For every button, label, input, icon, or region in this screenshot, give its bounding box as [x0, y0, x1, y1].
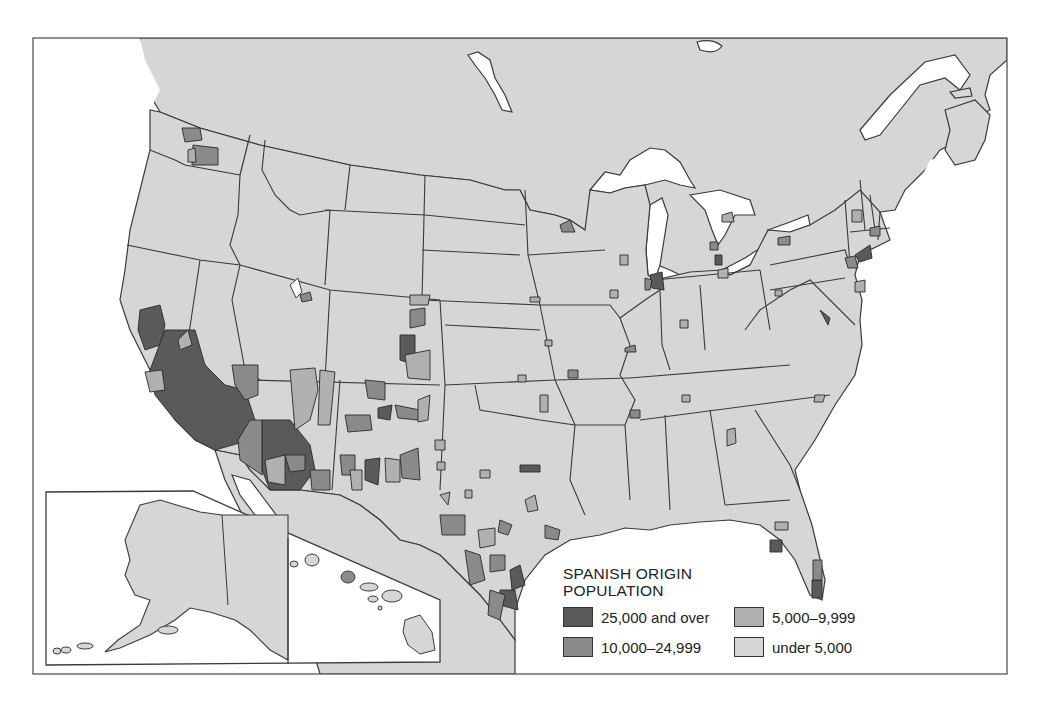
legend-swatch-25000-plus: [563, 607, 593, 627]
legend: SPANISH ORIGIN POPULATION 25,000 and ove…: [563, 565, 883, 657]
legend-item-5000-9999: 5,000–9,999: [734, 607, 884, 627]
legend-title-line1: SPANISH ORIGIN: [563, 565, 883, 582]
legend-swatch-10000-24999: [563, 637, 593, 657]
legend-label: 10,000–24,999: [601, 639, 701, 656]
legend-item-10000-24999: 10,000–24,999: [563, 637, 734, 657]
legend-item-under-5000: under 5,000: [734, 637, 884, 657]
legend-swatch-5000-9999: [734, 607, 764, 627]
legend-title-line2: POPULATION: [563, 582, 883, 599]
legend-swatch-under-5000: [734, 637, 764, 657]
legend-label: under 5,000: [772, 639, 852, 656]
legend-label: 25,000 and over: [601, 609, 709, 626]
legend-label: 5,000–9,999: [772, 609, 855, 626]
legend-item-25000-plus: 25,000 and over: [563, 607, 734, 627]
